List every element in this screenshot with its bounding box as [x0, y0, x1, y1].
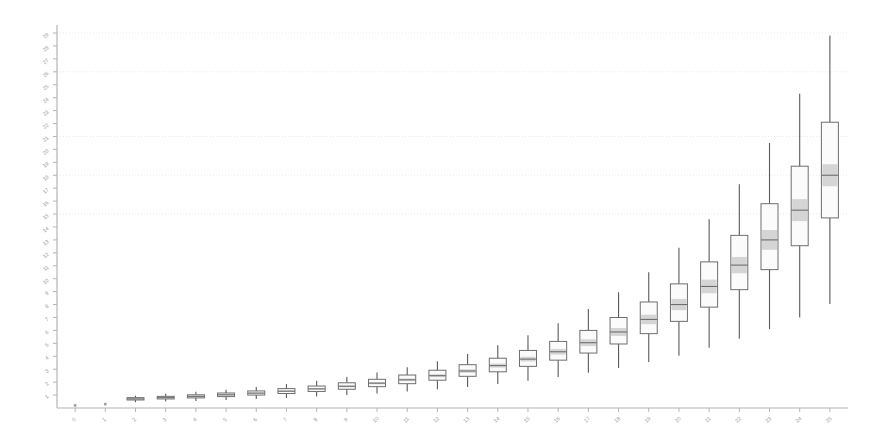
y-tick-label: 16 [41, 199, 49, 207]
x-tick-label: 1 [101, 416, 107, 422]
x-tick-label: 19 [643, 415, 651, 423]
boxplot-item [731, 184, 748, 339]
boxplot-item [519, 335, 536, 381]
y-tick-label: 12 [41, 251, 49, 259]
y-tick-label: 8 [44, 303, 50, 310]
x-tick-label: 13 [462, 415, 470, 423]
y-tick-label: 19 [41, 161, 49, 169]
x-tick-label: 22 [734, 415, 742, 423]
boxplot-item [187, 392, 204, 401]
y-tick-label: 3 [44, 367, 50, 374]
boxplot-series [74, 36, 839, 407]
y-tick-labels: 1234567891011121314151617181920212223242… [41, 31, 49, 400]
y-tick-label: 2 [44, 380, 50, 387]
x-tick-label: 3 [161, 416, 167, 422]
boxplot-item [821, 36, 838, 304]
y-tick-label: 17 [41, 186, 49, 194]
x-tick-label: 14 [492, 415, 500, 423]
y-tick-label: 24 [41, 96, 49, 104]
boxplot-item [104, 403, 107, 406]
y-tick-label: 22 [41, 122, 49, 130]
boxplot-item [248, 387, 265, 399]
x-tick-label: 23 [764, 415, 772, 423]
boxplot-item [610, 292, 627, 368]
y-tick-label: 27 [41, 57, 49, 65]
boxplot-item [489, 345, 506, 384]
x-tick-label: 12 [432, 415, 440, 423]
x-tick-label: 5 [222, 416, 228, 422]
y-tick-label: 15 [41, 212, 49, 220]
boxplot-item [459, 354, 476, 387]
y-tick-label: 5 [44, 342, 50, 349]
y-tick-label: 14 [41, 225, 49, 233]
boxplot-item [308, 381, 325, 397]
boxplot-item [369, 372, 386, 393]
y-tick-label: 7 [44, 316, 50, 323]
gridlines [57, 33, 848, 214]
boxplot-item [278, 384, 295, 398]
y-tick-label: 23 [41, 109, 49, 117]
boxplot-item [580, 309, 597, 373]
boxplot-item [550, 323, 567, 377]
x-tick-label: 7 [282, 416, 288, 422]
y-tick-label: 26 [41, 70, 49, 78]
boxplot-item [399, 367, 416, 391]
boxplot-item [640, 272, 657, 362]
x-tick-label: 10 [371, 415, 379, 423]
x-tick-label: 25 [824, 415, 832, 423]
y-tick-label: 11 [42, 264, 50, 272]
x-tick-label: 8 [312, 416, 318, 422]
boxplot-item [429, 361, 446, 389]
y-tick-label: 10 [41, 277, 49, 285]
boxplot-item [127, 396, 144, 402]
y-tick-label: 18 [41, 173, 49, 181]
y-tick-label: 6 [44, 329, 50, 336]
y-axis [53, 25, 57, 408]
x-tick-label: 4 [191, 416, 197, 422]
y-tick-label: 4 [44, 354, 50, 361]
x-tick-label: 2 [131, 416, 137, 422]
boxplot-item [218, 390, 235, 400]
boxplot-chart: 1234567891011121314151617181920212223242… [0, 0, 879, 438]
boxplot-point [74, 404, 77, 407]
boxplot-point [104, 403, 107, 406]
x-tick-label: 9 [342, 416, 348, 422]
boxplot-item [157, 394, 174, 402]
x-tick-label: 24 [794, 415, 802, 423]
boxplot-item [670, 248, 687, 356]
y-tick-label: 25 [41, 83, 49, 91]
boxplot-item [74, 404, 77, 407]
x-tick-label: 17 [583, 415, 591, 423]
boxplot-item [338, 377, 355, 395]
x-tick-label: 20 [673, 415, 681, 423]
y-tick-label: 21 [41, 135, 49, 143]
y-tick-label: 29 [41, 31, 49, 39]
x-axis [57, 408, 848, 412]
x-tick-label: 15 [522, 415, 530, 423]
chart-canvas: 1234567891011121314151617181920212223242… [0, 0, 879, 438]
y-tick-label: 13 [41, 238, 49, 246]
x-tick-label: 21 [704, 415, 712, 423]
boxplot-item [701, 219, 718, 348]
y-tick-label: 9 [44, 290, 50, 297]
boxplot-item [791, 94, 808, 318]
y-tick-label: 28 [41, 44, 49, 52]
y-tick-label: 20 [41, 148, 49, 156]
boxplot-item [761, 143, 778, 329]
x-tick-label: 6 [252, 416, 258, 422]
x-tick-label: 16 [553, 415, 561, 423]
x-tick-label: 0 [71, 416, 77, 422]
x-tick-label: 18 [613, 415, 621, 423]
x-tick-label: 11 [402, 415, 410, 423]
x-tick-labels: 0123456789101112131415161718192021222324… [71, 415, 833, 423]
y-tick-label: 1 [44, 393, 50, 400]
